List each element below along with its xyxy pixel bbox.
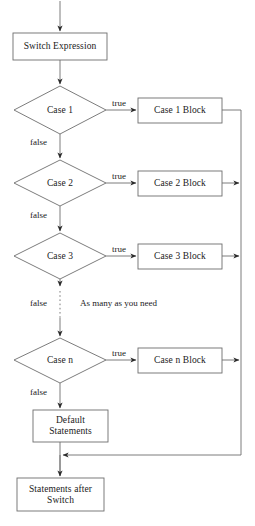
node-switch-expression-shape	[13, 33, 107, 60]
node-default-statements-shape	[33, 410, 108, 442]
node-casen-shape	[14, 338, 106, 383]
node-case3-block-shape	[138, 244, 222, 269]
node-case3-shape	[14, 233, 106, 279]
flowchart-connectors	[0, 0, 255, 526]
node-case1-shape	[14, 86, 106, 134]
node-casen-block-shape	[138, 348, 222, 373]
node-case2-block-shape	[138, 171, 222, 196]
node-statements-after-switch-shape	[17, 478, 104, 511]
edge-case1-block-to-rail	[222, 110, 241, 455]
flowchart-canvas: Switch Expression Case 1 Case 1 Block Ca…	[0, 0, 255, 526]
node-case1-block-shape	[138, 98, 222, 123]
node-case2-shape	[14, 160, 106, 206]
